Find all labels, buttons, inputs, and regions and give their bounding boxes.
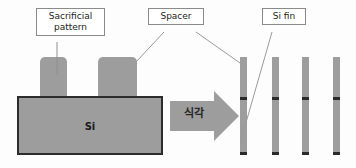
si-fin-body: [302, 57, 309, 155]
sacrificial-pillar-right: [98, 57, 137, 101]
si-fin-band-base: [333, 152, 340, 155]
si-fin-1: [240, 57, 247, 155]
leader-spacer-to-fin: [196, 32, 240, 63]
etch-process-label: 식각: [170, 104, 218, 120]
process-flow-diagram: Sacrificial pattern Spacer Si fin Si 식각: [0, 0, 356, 168]
sacrificial-pillar-left: [40, 57, 67, 101]
si-fin-band-mid: [302, 97, 309, 100]
si-fin-body: [333, 57, 340, 155]
si-fin-body: [240, 57, 247, 155]
si-fin-band-base: [240, 152, 247, 155]
leader-spacer-to-pillar: [136, 32, 164, 62]
callout-si-fin: Si fin: [262, 8, 306, 25]
si-fin-band-mid: [240, 97, 247, 100]
si-fin-band-mid: [333, 97, 340, 100]
si-fin-3: [302, 57, 309, 155]
si-fin-band-base: [272, 152, 279, 155]
si-fin-2: [272, 57, 279, 155]
callout-spacer: Spacer: [148, 8, 204, 25]
si-substrate: Si: [17, 96, 163, 155]
si-fin-body: [272, 57, 279, 155]
si-fin-band-mid: [272, 97, 279, 100]
si-substrate-label: Si: [19, 120, 161, 131]
si-fin-band-base: [302, 152, 309, 155]
si-fin-4: [333, 57, 340, 155]
callout-sacrificial-pattern: Sacrificial pattern: [36, 8, 105, 36]
